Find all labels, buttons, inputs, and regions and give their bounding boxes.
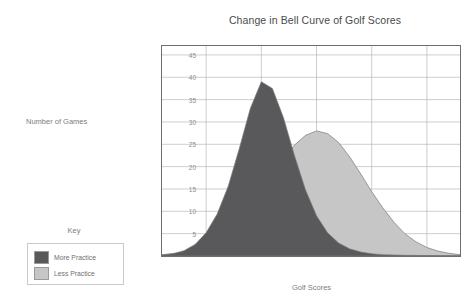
y-tick-label: 25 <box>180 141 196 148</box>
legend-label: More Practice <box>54 254 96 261</box>
plot-area: 5101520253035404580859095100 <box>161 45 461 257</box>
legend-swatch-less-practice <box>34 267 49 280</box>
y-tick-label: 30 <box>180 118 196 125</box>
y-tick-label: 5 <box>180 230 196 237</box>
legend-title: Key <box>24 226 124 235</box>
page-title: Change in Bell Curve of Golf Scores <box>160 14 470 26</box>
tick-label-layer: 5101520253035404580859095100 <box>162 46 460 256</box>
legend-label: Less Practice <box>54 270 95 277</box>
legend: More Practice Less Practice <box>27 243 124 285</box>
y-axis-title: Number of Games <box>26 117 87 126</box>
legend-item: More Practice <box>34 249 117 265</box>
y-tick-label: 45 <box>180 51 196 58</box>
legend-item: Less Practice <box>34 265 117 281</box>
y-tick-label: 40 <box>180 74 196 81</box>
y-tick-label: 10 <box>180 208 196 215</box>
y-tick-label: 15 <box>180 185 196 192</box>
y-tick-label: 35 <box>180 96 196 103</box>
y-tick-label: 20 <box>180 163 196 170</box>
legend-swatch-more-practice <box>34 251 49 264</box>
